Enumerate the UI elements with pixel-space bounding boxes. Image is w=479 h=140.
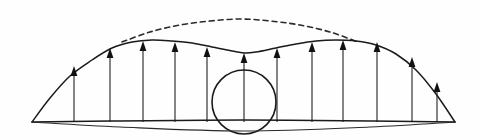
load-arrow [107,48,114,122]
load-arrow [140,41,147,122]
lift-distribution-diagram [0,0,479,140]
load-arrow [409,57,416,122]
load-arrow [374,42,381,122]
ideal-elliptical-curve-group [122,19,358,42]
load-arrow [309,42,316,122]
load-arrow [434,82,441,122]
baseline-lower-chord [32,122,455,131]
ideal-elliptical-curve [122,19,358,42]
load-arrow [172,42,179,122]
load-arrow [204,47,211,122]
load-arrow [71,66,78,122]
diagram-canvas [0,0,479,140]
load-arrow [241,53,248,122]
load-arrow [340,40,347,122]
